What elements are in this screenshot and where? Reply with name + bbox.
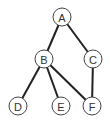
node-a: A bbox=[53, 8, 71, 26]
node-label: F bbox=[89, 101, 96, 113]
node-d: D bbox=[9, 97, 27, 115]
node-f: F bbox=[83, 97, 101, 115]
node-label: A bbox=[58, 12, 66, 24]
node-c: C bbox=[84, 50, 102, 68]
graph-diagram: ABCDEF bbox=[0, 0, 110, 124]
nodes-layer: ABCDEF bbox=[9, 8, 102, 115]
node-label: B bbox=[40, 54, 47, 66]
node-label: D bbox=[14, 101, 22, 113]
edge-b-f bbox=[44, 59, 92, 106]
edges-layer bbox=[18, 17, 93, 106]
node-b: B bbox=[35, 50, 53, 68]
node-label: C bbox=[89, 54, 97, 66]
node-label: E bbox=[57, 101, 64, 113]
node-e: E bbox=[52, 97, 70, 115]
